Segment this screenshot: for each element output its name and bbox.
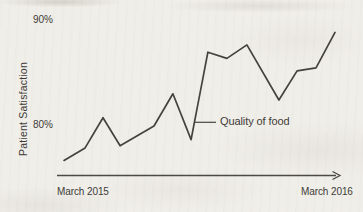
y-tick-90-label: 90% bbox=[33, 14, 53, 25]
x-axis-end-label: March 2016 bbox=[301, 186, 353, 197]
chart-canvas bbox=[0, 0, 363, 212]
x-axis-start-label: March 2015 bbox=[57, 186, 109, 197]
scanned-chart-page: 90% 80% Patient Satisfaction March 2015 … bbox=[0, 0, 363, 212]
annotation-quality-of-food: Quality of food bbox=[220, 115, 289, 127]
y-axis-title: Patient Satisfaction bbox=[16, 53, 30, 165]
satisfaction-line bbox=[64, 32, 335, 160]
y-tick-80-label: 80% bbox=[33, 119, 53, 130]
